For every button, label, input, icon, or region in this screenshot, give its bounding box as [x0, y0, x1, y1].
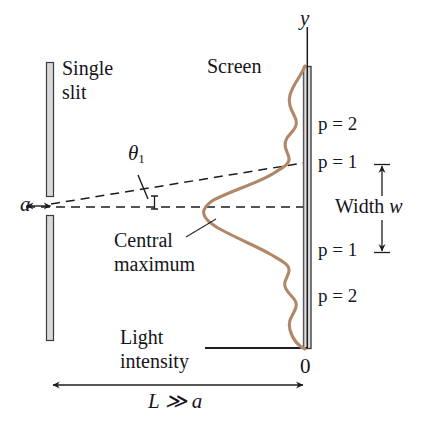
barrier-upper-bar [47, 63, 54, 197]
fringe-label-p2-lower: p = 2 [318, 286, 357, 306]
width-w-label: Widthw [335, 196, 403, 217]
light-intensity-label: Light intensity [120, 325, 189, 374]
y-axis-label: y [300, 8, 309, 30]
single-slit-label-line1: Single [62, 56, 113, 80]
theta-label: θ1 [128, 143, 145, 166]
fringe-label-p2-upper: p = 2 [318, 114, 357, 134]
theta-angle-tick [138, 175, 148, 199]
central-maximum-line1: Central [114, 228, 195, 252]
slit-width-label: a [20, 194, 31, 216]
screen-label: Screen [207, 56, 261, 77]
light-intensity-line2: intensity [120, 349, 189, 373]
fringe-label-p1-lower: p = 1 [318, 240, 357, 260]
distance-label: L ≫ a [148, 391, 202, 413]
origin-label: 0 [300, 356, 311, 378]
central-maximum-label: Central maximum [114, 228, 195, 277]
single-slit-diffraction-figure: Single slit Screen y 0 a θ1 p = 2 p = 1 … [0, 0, 444, 432]
first-minimum-ray [51, 163, 303, 209]
fringe-label-p1-upper: p = 1 [318, 152, 357, 172]
single-slit-label-line2: slit [62, 80, 113, 104]
theta-subscript: 1 [138, 151, 145, 166]
width-w-word: Width [335, 195, 384, 217]
central-maximum-line2: maximum [114, 252, 195, 276]
theta-ray-dashed-line [51, 163, 303, 204]
light-intensity-line1: Light [120, 325, 189, 349]
width-w-symbol: w [389, 195, 402, 217]
slit-barrier [47, 63, 54, 341]
barrier-lower-bar [47, 216, 54, 341]
theta-symbol: θ [128, 141, 138, 165]
single-slit-label: Single slit [62, 56, 113, 105]
